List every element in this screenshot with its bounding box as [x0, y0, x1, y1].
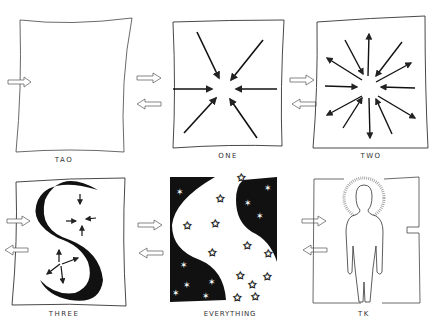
label-three: THREE [24, 310, 104, 318]
transition-tao-one [137, 73, 161, 109]
svg-text:✶: ✶ [183, 280, 191, 290]
arrow-in-icon [7, 216, 30, 226]
svg-text:✩: ✩ [248, 279, 257, 290]
svg-text:✩: ✩ [183, 220, 192, 231]
svg-text:✩: ✩ [264, 248, 273, 259]
panel-one [173, 20, 284, 148]
s-ribbon [36, 181, 104, 301]
transition-one-two [290, 75, 316, 109]
panel-tao [8, 18, 132, 152]
label-two: TWO [331, 152, 411, 160]
label-everything: EVERYTHING [190, 310, 270, 318]
arrow-in-icon [8, 77, 31, 87]
svg-text:✶: ✶ [208, 277, 216, 287]
label-tk: TK [324, 310, 404, 318]
converging-arrows-icon [173, 32, 277, 138]
svg-text:✶: ✶ [198, 184, 206, 194]
panel-three [5, 178, 126, 306]
svg-text:✶: ✶ [180, 260, 188, 270]
svg-text:✶: ✶ [172, 288, 180, 298]
human-figure-icon [346, 185, 383, 302]
svg-text:✩: ✩ [251, 291, 260, 302]
svg-text:✩: ✩ [216, 193, 225, 204]
svg-text:✶: ✶ [202, 291, 210, 301]
svg-text:✩: ✩ [243, 240, 252, 251]
diagram-canvas: ✶✶ ✶✶ ✶✶ ✶✶ ✶✶ ✩ ✩ ✩ ✩ ✩ ✩ ✩ ✩ ✩ ✩ ✩ ✩ [0, 0, 435, 330]
svg-text:✩: ✩ [233, 292, 242, 303]
panel-two [313, 16, 428, 148]
transition-everything-tk [302, 216, 327, 255]
svg-text:✩: ✩ [263, 271, 272, 282]
svg-text:✶: ✶ [256, 211, 264, 221]
svg-text:✩: ✩ [211, 218, 220, 229]
label-one: ONE [188, 152, 268, 160]
radiating-arrows-icon [325, 34, 415, 138]
svg-text:✶: ✶ [176, 187, 184, 197]
transition-three-everything [138, 220, 163, 258]
svg-text:✩: ✩ [237, 172, 246, 183]
label-tao: TAO [24, 156, 104, 164]
svg-text:✩: ✩ [236, 270, 245, 281]
svg-text:✩: ✩ [208, 247, 217, 258]
inner-arrows-icon [47, 194, 96, 283]
arrow-out-icon [5, 245, 28, 255]
panel-tk [313, 177, 420, 303]
panel-everything: ✶✶ ✶✶ ✶✶ ✶✶ ✶✶ ✩ ✩ ✩ ✩ ✩ ✩ ✩ ✩ ✩ ✩ ✩ ✩ [170, 172, 277, 303]
svg-text:✶: ✶ [244, 198, 252, 208]
svg-text:✶: ✶ [264, 183, 272, 193]
